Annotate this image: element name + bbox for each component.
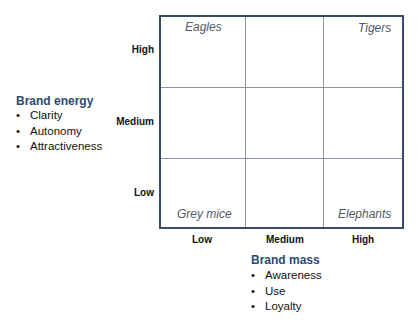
x-axis-bullet-item: •Use [251, 284, 322, 300]
quadrant-label-elephants: Elephants [338, 207, 391, 221]
bullet-icon: • [251, 268, 265, 284]
grid-divider-horizontal [161, 158, 402, 159]
quadrant-label-tigers: Tigers [358, 21, 391, 35]
bullet-icon: • [251, 284, 265, 300]
grid-divider-vertical [323, 17, 324, 227]
bullet-icon: • [16, 108, 30, 124]
y-tick-medium: Medium [116, 116, 154, 127]
matrix-grid: Eagles Tigers Grey mice Elephants [159, 15, 404, 229]
y-tick-high: High [132, 44, 154, 55]
x-axis-heading: Brand mass [251, 253, 320, 267]
y-axis-bullet-list: •Clarity •Autonomy •Attractiveness [16, 108, 102, 155]
x-axis-bullet-item: •Loyalty [251, 299, 322, 315]
x-axis-bullet-list: •Awareness •Use •Loyalty [251, 268, 322, 315]
bullet-icon: • [251, 299, 265, 315]
bullet-icon: • [16, 139, 30, 155]
bullet-icon: • [16, 124, 30, 140]
grid-divider-horizontal [161, 87, 402, 88]
y-tick-low: Low [134, 187, 154, 198]
quadrant-label-eagles: Eagles [185, 20, 222, 34]
x-tick-medium: Medium [266, 234, 304, 245]
y-axis-bullet-item: •Autonomy [16, 124, 102, 140]
y-axis-bullet-item: •Clarity [16, 108, 102, 124]
grid-divider-vertical [245, 17, 246, 227]
quadrant-label-grey-mice: Grey mice [177, 207, 232, 221]
y-axis-heading: Brand energy [16, 94, 93, 108]
x-tick-low: Low [192, 234, 212, 245]
x-axis-bullet-item: •Awareness [251, 268, 322, 284]
x-tick-high: High [352, 234, 374, 245]
y-axis-bullet-item: •Attractiveness [16, 139, 102, 155]
